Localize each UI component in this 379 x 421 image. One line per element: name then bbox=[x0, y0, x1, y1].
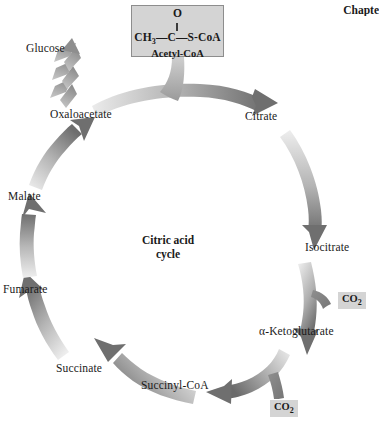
label-alpha-ketoglutarate: α-Ketoglutarate bbox=[259, 325, 334, 337]
label-oxaloacetate: Oxaloacetate bbox=[50, 108, 112, 120]
arrow-co2-branch-succinyl bbox=[268, 372, 284, 399]
oxygen-label: O bbox=[132, 7, 223, 20]
double-bond-icon bbox=[176, 23, 178, 31]
center-title-line2: cycle bbox=[142, 247, 194, 261]
co2-subscript: 2 bbox=[358, 298, 362, 307]
co2-text: CO bbox=[274, 401, 290, 412]
formula-dash-left: — bbox=[156, 31, 168, 43]
label-fumarate: Fumarate bbox=[3, 283, 48, 295]
arrow-succinyl-coa-to-succinate bbox=[94, 338, 196, 404]
label-isocitrate: Isocitrate bbox=[305, 241, 349, 253]
co2-text: CO bbox=[342, 293, 358, 304]
formula-carbon: C bbox=[168, 31, 176, 43]
co2-chip-isocitrate: CO2 bbox=[338, 292, 366, 309]
label-malate: Malate bbox=[8, 190, 41, 202]
arrow-isocitrate-to-ketoglutarate bbox=[293, 262, 318, 355]
co2-subscript: 2 bbox=[290, 406, 294, 415]
label-glucose: Glucose bbox=[26, 42, 65, 54]
formula-dash-right: — bbox=[176, 31, 188, 43]
acetyl-coa-name: Acetyl-CoA bbox=[132, 48, 223, 59]
acetyl-coa-formula: CH3—C—S-CoA bbox=[132, 31, 223, 46]
arrow-malate-to-oxaloacetate bbox=[29, 117, 95, 190]
arrow-fumarate-to-malate bbox=[20, 193, 46, 278]
formula-scoa: S-CoA bbox=[188, 31, 221, 43]
label-succinyl-coa: Succinyl-CoA bbox=[141, 379, 209, 391]
label-succinate: Succinate bbox=[56, 362, 102, 374]
label-citrate: Citrate bbox=[245, 110, 277, 122]
acetyl-coa-box: O CH3—C—S-CoA Acetyl-CoA bbox=[131, 5, 224, 57]
arrow-citrate-to-isocitrate bbox=[280, 130, 327, 250]
formula-ch3: CH bbox=[134, 31, 151, 43]
center-title-line1: Citric acid bbox=[142, 233, 194, 247]
co2-chip-succinyl: CO2 bbox=[270, 400, 298, 417]
center-title: Citric acid cycle bbox=[142, 233, 194, 262]
